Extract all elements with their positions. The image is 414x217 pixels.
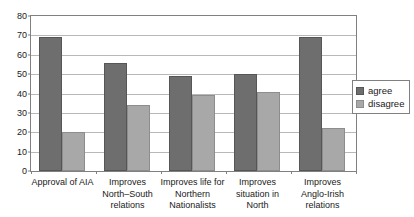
legend-label-agree: agree	[368, 86, 392, 96]
legend-swatch-agree	[356, 87, 364, 95]
chart-legend: agree disagree	[352, 80, 410, 114]
y-tick-label: 20	[17, 128, 27, 137]
x-tick-mark	[161, 171, 162, 174]
bar-disagree	[257, 92, 280, 171]
bar-disagree	[62, 132, 85, 171]
x-tick-mark	[226, 171, 227, 174]
x-tick-mark	[96, 171, 97, 174]
bar-group	[291, 16, 356, 171]
x-axis-label: Improves Anglo-Irish relations	[284, 177, 361, 212]
y-tick-label: 0	[22, 167, 27, 176]
bar-disagree	[127, 105, 150, 171]
bar-agree	[299, 37, 322, 171]
legend-item-agree: agree	[356, 84, 404, 97]
bar-group	[226, 16, 291, 171]
bar-disagree	[322, 128, 345, 171]
legend-swatch-disagree	[356, 100, 364, 108]
plot-area: 01020304050607080	[30, 15, 357, 172]
bar-chart-figure: 01020304050607080 Approval of AIAImprove…	[0, 0, 414, 217]
x-tick-mark	[291, 171, 292, 174]
y-tick-label: 40	[17, 89, 27, 98]
bar-group	[31, 16, 96, 171]
bar-agree	[234, 74, 257, 171]
bar-agree	[39, 37, 62, 171]
y-tick-label: 50	[17, 70, 27, 79]
x-tick-mark	[356, 171, 357, 174]
y-tick-label: 30	[17, 108, 27, 117]
y-tick-label: 10	[17, 147, 27, 156]
legend-label-disagree: disagree	[368, 99, 404, 109]
bar-agree	[169, 76, 192, 171]
bars-layer	[31, 16, 356, 171]
bar-group	[96, 16, 161, 171]
x-tick-mark	[31, 171, 32, 174]
bar-agree	[104, 63, 127, 172]
bar-group	[161, 16, 226, 171]
y-tick-label: 70	[17, 31, 27, 40]
bar-disagree	[192, 95, 215, 171]
y-tick-label: 60	[17, 50, 27, 59]
y-tick-label: 80	[17, 12, 27, 21]
legend-item-disagree: disagree	[356, 97, 404, 110]
